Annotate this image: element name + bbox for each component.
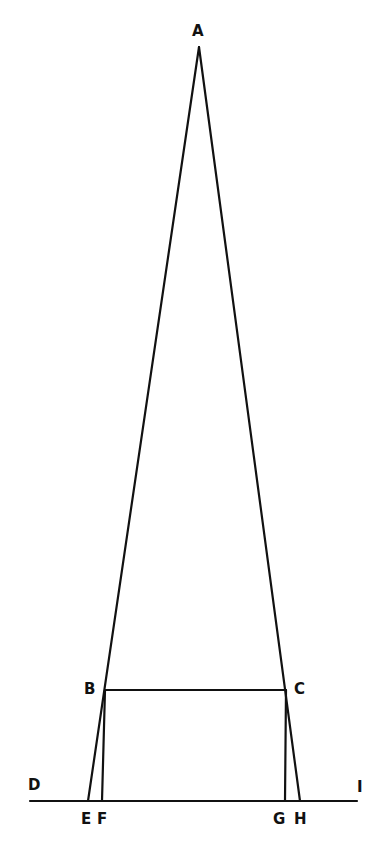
point-label-f: F <box>97 810 107 828</box>
point-label-h: H <box>294 810 307 828</box>
point-label-a: A <box>192 22 204 40</box>
segment-ae <box>88 47 199 801</box>
point-label-c: C <box>294 680 305 698</box>
segment-cg <box>285 690 286 801</box>
diagram-labels: ABCDIEFGH <box>28 22 363 828</box>
point-label-b: B <box>84 680 95 698</box>
point-label-g: G <box>273 810 285 828</box>
point-label-d: D <box>28 776 40 794</box>
diagram-segments <box>30 47 357 801</box>
segment-ah <box>199 47 300 801</box>
point-label-e: E <box>81 810 91 828</box>
geometric-diagram: ABCDIEFGH <box>0 0 379 858</box>
point-label-i: I <box>357 778 363 796</box>
